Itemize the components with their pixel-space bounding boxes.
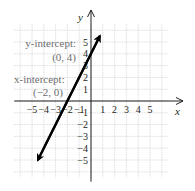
y-intercept-label: y-intercept:	[25, 37, 76, 49]
y-tick-label: −5	[77, 155, 88, 166]
y-tick-label: −4	[77, 143, 88, 154]
y-tick-label: −1	[77, 107, 88, 118]
y-tick-label: 4	[83, 48, 88, 59]
y-tick-label: −2	[77, 119, 88, 130]
x-tick-label: 5	[148, 104, 153, 115]
x-intercept-point: (−2, 0)	[33, 86, 63, 99]
coordinate-graph: −5−4−3−2−11234554321−1−2−3−4−5 y x y-int…	[0, 0, 195, 191]
x-tick-label: −5	[27, 104, 38, 115]
y-tick-label: 5	[83, 37, 88, 48]
x-intercept-label: x-intercept:	[14, 73, 65, 85]
y-tick-label: −3	[77, 131, 88, 142]
x-tick-label: 3	[124, 104, 129, 115]
x-tick-label: 4	[136, 104, 141, 115]
x-tick-label: 1	[100, 104, 105, 115]
x-tick-label: −4	[38, 104, 49, 115]
x-tick-label: −3	[50, 104, 61, 115]
y-tick-label: 1	[83, 84, 88, 95]
y-axis-label: y	[77, 11, 83, 23]
x-tick-label: 2	[112, 104, 117, 115]
y-intercept-point: (0, 4)	[52, 51, 76, 64]
x-axis-label: x	[174, 105, 180, 117]
y-tick-label: 2	[83, 72, 88, 83]
